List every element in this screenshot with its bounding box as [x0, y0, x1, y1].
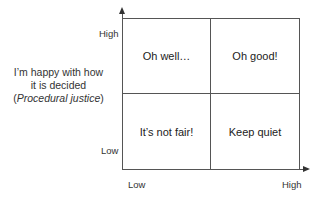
quadrant-top-right: Oh good!: [211, 19, 299, 93]
y-axis-arrow-icon: [119, 7, 125, 14]
y-axis-high-label: High: [99, 28, 119, 39]
y-axis-low-label: Low: [101, 145, 118, 156]
y-axis-label-line2: it is decided: [0, 79, 117, 92]
y-axis-label-line3: (Procedural justice): [0, 92, 117, 105]
x-axis-high-label: High: [282, 179, 302, 190]
quadrant-top-left-text: Oh well…: [143, 50, 191, 62]
y-axis-label: I’m happy with how it is decided (Proced…: [0, 66, 117, 105]
quadrant-top-left: Oh well…: [123, 19, 210, 93]
quadrant-top-right-text: Oh good!: [232, 50, 277, 62]
quadrant-bottom-left-text: It’s not fair!: [140, 126, 194, 138]
quadrant-bottom-right: Keep quiet: [211, 94, 299, 169]
y-axis-label-line1: I’m happy with how: [0, 66, 117, 79]
x-axis-low-label: Low: [128, 179, 145, 190]
quadrant-bottom-right-text: Keep quiet: [229, 126, 282, 138]
quadrant-bottom-left: It’s not fair!: [123, 94, 210, 169]
x-axis-arrow-icon: [303, 166, 310, 172]
x-axis-line: [122, 169, 304, 170]
